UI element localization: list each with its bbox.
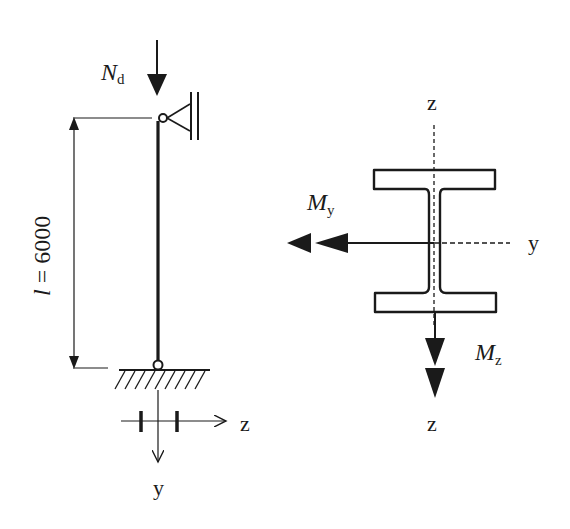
diagram-canvas: Nd l = 6000 — [0, 0, 570, 529]
section-axis-y-label: y — [528, 230, 539, 255]
top-lateral-support — [159, 92, 198, 140]
column-diagram: Nd l = 6000 — [29, 40, 250, 500]
section-axis-z-bottom-label: z — [427, 411, 437, 436]
moment-mz-vector — [425, 312, 445, 398]
moment-mz-label: Mz — [474, 339, 502, 368]
local-axes-symbol — [121, 390, 226, 462]
length-label: l = 6000 — [29, 216, 55, 296]
moment-my-label: My — [306, 189, 335, 218]
section-axis-z-top-label: z — [427, 90, 437, 115]
bottom-pinned-support — [115, 361, 210, 390]
cross-section-diagram: My Mz z z y — [287, 90, 539, 436]
i-section-outline — [374, 170, 496, 312]
local-axis-z-label: z — [240, 411, 250, 436]
length-dimension — [69, 117, 152, 369]
local-axis-y-label: y — [153, 475, 164, 500]
axial-load-label: Nd — [100, 59, 125, 87]
axial-load-arrow — [147, 40, 167, 96]
moment-my-vector — [287, 233, 434, 253]
